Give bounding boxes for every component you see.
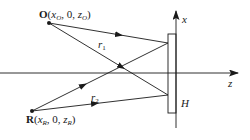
hologram-plate: [168, 34, 176, 113]
ray-r-bottom-r2: [32, 95, 168, 111]
plate-label: H: [181, 98, 189, 109]
reference-point-label: R(xR, 0, zR): [26, 114, 76, 127]
z-axis-label: z: [228, 78, 232, 89]
ray-r1-label: r1: [98, 39, 106, 52]
ray-r2-label: r2: [91, 92, 99, 105]
ray-o-bottom-r1: [49, 23, 168, 95]
x-axis-label: x: [182, 14, 187, 25]
ray-r-top: [32, 43, 168, 111]
ray-o-top: [49, 23, 168, 43]
object-point-label: O(xO, 0, zO): [39, 9, 91, 22]
